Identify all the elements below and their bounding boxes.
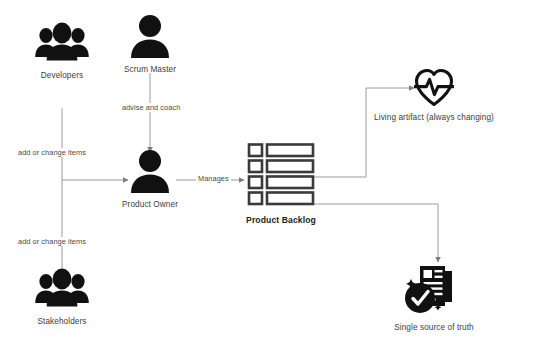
edge-label-stakeholders-to-po: add or change items (16, 237, 88, 246)
node-label-product-backlog: Product Backlog (246, 215, 316, 225)
node-stakeholders[interactable]: Stakeholders (22, 268, 102, 326)
edge-label-scrum-master-to-po: advise and coach (120, 103, 182, 112)
people-group-icon (33, 22, 91, 64)
document-check-icon (402, 262, 466, 316)
node-label-stakeholders: Stakeholders (38, 317, 87, 326)
edge-label-developers-to-po: add or change items (16, 148, 88, 157)
node-label-developers: Developers (41, 71, 83, 80)
node-label-scrum-master: Scrum Master (124, 65, 176, 74)
person-icon (127, 149, 173, 193)
node-label-single-source-of-truth: Single source of truth (394, 323, 474, 332)
diagram-canvas: Developers Scrum Master Product Owner (0, 0, 537, 348)
node-living-artifact[interactable]: Living artifact (always changing) (354, 68, 514, 122)
node-scrum-master[interactable]: Scrum Master (112, 14, 188, 74)
node-product-backlog[interactable]: Product Backlog (238, 140, 324, 225)
node-developers[interactable]: Developers (22, 22, 102, 80)
heartbeat-icon (414, 68, 454, 106)
node-label-product-owner: Product Owner (122, 200, 178, 209)
edge-label-po-to-backlog: Manages (196, 174, 231, 183)
edge-backlog-to-single-source (313, 204, 438, 262)
node-product-owner[interactable]: Product Owner (112, 149, 188, 209)
backlog-list-icon (243, 140, 319, 208)
node-single-source-of-truth[interactable]: Single source of truth (374, 262, 494, 332)
node-label-living-artifact: Living artifact (always changing) (374, 113, 494, 122)
people-group-icon (33, 268, 91, 310)
person-icon (127, 14, 173, 58)
